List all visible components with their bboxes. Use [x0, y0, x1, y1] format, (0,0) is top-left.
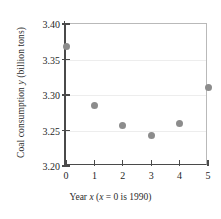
gridline: [66, 95, 206, 96]
y-axis-tick: [62, 130, 70, 131]
y-axis-title-prefix: Coal consumption: [16, 85, 26, 158]
y-axis-tick-label: 3.20: [43, 161, 61, 172]
x-axis-tick: [207, 160, 208, 166]
x-axis-title-suffix: = 0 is 1990): [103, 192, 151, 202]
x-axis-tick: [65, 160, 66, 166]
gridline: [66, 60, 206, 61]
plot-area: 3.203.253.303.353.40 012345: [65, 23, 207, 165]
y-axis-tick-label: 3.30: [43, 90, 61, 101]
y-axis-tick: [62, 59, 70, 60]
y-axis-title: Coal consumption y (billion tons): [14, 15, 28, 170]
x-axis-title-prefix: Year: [70, 192, 90, 202]
data-point: [119, 122, 126, 129]
data-point: [91, 102, 98, 109]
x-axis-tick: [122, 160, 123, 166]
data-point: [148, 132, 155, 139]
x-axis-tick-label: 0: [64, 170, 69, 181]
x-axis-title: Year x (x = 0 is 1990): [0, 192, 221, 202]
x-axis-tick-label: 1: [92, 170, 97, 181]
y-axis-title-variable: y: [16, 80, 26, 84]
y-axis-tick-label: 3.40: [43, 19, 61, 30]
data-point: [205, 84, 212, 91]
data-point: [176, 120, 183, 127]
y-axis-tick: [62, 94, 70, 95]
y-axis-tick-label: 3.35: [43, 54, 61, 65]
chart-figure: Coal consumption y (billion tons) 3.203.…: [0, 0, 221, 219]
y-axis-title-suffix: (billion tons): [16, 27, 26, 80]
y-axis-tick: [62, 23, 70, 24]
x-axis-tick: [94, 160, 95, 166]
gridline: [66, 131, 206, 132]
x-axis-tick: [179, 160, 180, 166]
y-axis-tick-label: 3.25: [43, 125, 61, 136]
x-axis-tick-label: 4: [177, 170, 182, 181]
data-point: [63, 43, 70, 50]
x-axis-tick-label: 5: [206, 170, 211, 181]
x-axis-tick-label: 3: [149, 170, 154, 181]
x-axis-tick-label: 2: [120, 170, 125, 181]
x-axis-tick: [151, 160, 152, 166]
